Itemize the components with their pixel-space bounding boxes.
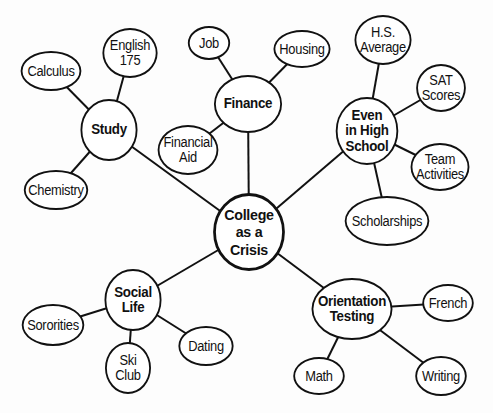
node-writing: Writing <box>415 356 467 396</box>
node-hsavg: H.S. Average <box>354 15 411 65</box>
node-sororities: Sororities <box>22 304 85 346</box>
node-label: English 175 <box>110 38 150 67</box>
node-label: Team Activities <box>416 152 464 181</box>
node-crisis: College as a Crisis <box>213 193 285 271</box>
node-scholar: Scholarships <box>345 196 430 246</box>
node-team: Team Activities <box>411 143 470 191</box>
node-finaid: Financial Aid <box>158 125 219 175</box>
node-label: Housing <box>279 42 324 57</box>
node-label: Writing <box>422 369 460 384</box>
node-dating: Dating <box>178 326 233 366</box>
node-label: H.S. Average <box>360 25 406 54</box>
node-highschool: Even in High School <box>336 97 399 165</box>
node-orientation: Orientation Testing <box>312 278 393 340</box>
node-label: Financial Aid <box>163 135 212 164</box>
node-label: Job <box>199 36 219 51</box>
node-label: Chemistry <box>28 183 83 198</box>
node-study: Study <box>80 99 137 161</box>
node-sat: SAT Scores <box>416 64 466 112</box>
node-label: Orientation Testing <box>318 294 386 324</box>
node-housing: Housing <box>273 30 330 68</box>
node-label: French <box>429 296 467 311</box>
node-social: Social Life <box>104 269 161 331</box>
node-label: Study <box>91 122 127 137</box>
node-calculus: Calculus <box>21 51 82 91</box>
node-chemistry: Chemistry <box>24 170 88 210</box>
node-label: Scholarships <box>352 214 422 229</box>
node-label: Even in High School <box>345 108 388 154</box>
node-label: Calculus <box>27 64 74 79</box>
node-label: Social Life <box>114 285 152 315</box>
node-label: Ski Club <box>115 353 140 382</box>
node-label: SAT Scores <box>422 73 460 102</box>
node-finance: Finance <box>214 75 282 133</box>
node-ski: Ski Club <box>105 342 151 394</box>
node-label: College as a Crisis <box>224 206 274 257</box>
node-english: English 175 <box>102 28 157 78</box>
node-label: Dating <box>188 339 224 354</box>
node-job: Job <box>188 26 230 60</box>
node-label: Finance <box>224 96 272 111</box>
node-label: Sororities <box>27 318 79 333</box>
node-math: Math <box>293 357 345 395</box>
node-label: Math <box>305 369 333 384</box>
node-french: French <box>422 284 474 322</box>
mind-map-canvas: College as a CrisisStudyCalculusEnglish … <box>0 0 493 413</box>
